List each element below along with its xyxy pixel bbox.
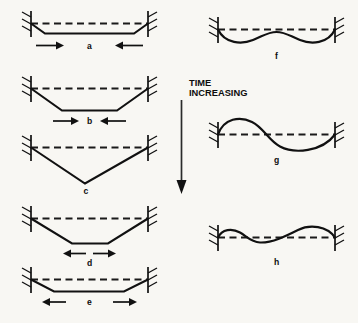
time-increasing-annotation: TIME INCREASING — [177, 78, 248, 194]
panel-label-e: e — [87, 297, 92, 307]
panel-f: f — [209, 17, 344, 61]
panel-label-d: d — [87, 258, 92, 268]
support-right-fixed-b — [148, 76, 157, 102]
buckling-sequence-figure: a — [0, 0, 358, 323]
support-left-fixed-d — [22, 206, 31, 232]
panel-label-c: c — [84, 186, 89, 196]
support-left-fixed-f — [209, 17, 218, 43]
load-arrow-right-e — [113, 298, 137, 306]
support-left-fixed-c — [22, 135, 31, 161]
deflected-beam-c — [31, 148, 148, 184]
panel-c: c — [22, 135, 157, 196]
support-right-fixed-h — [335, 225, 344, 251]
figure-canvas: a — [0, 0, 358, 323]
support-right-fixed-c — [148, 135, 157, 161]
deflected-beam-b — [31, 89, 148, 111]
panel-label-b: b — [87, 116, 92, 126]
support-right-fixed-f — [335, 17, 344, 43]
support-right-fixed-g — [335, 122, 344, 148]
support-right-fixed-d — [148, 206, 157, 232]
load-arrow-left-b — [53, 117, 79, 125]
deflected-beam-e — [31, 280, 148, 292]
deflected-beam-h — [218, 227, 335, 243]
time-caption-line1: TIME — [189, 78, 211, 88]
load-arrow-right-d — [93, 250, 116, 258]
load-arrow-right-b — [100, 117, 126, 125]
deflected-beam-a — [31, 24, 148, 34]
support-left-fixed-g — [209, 122, 218, 148]
load-arrow-left-e — [42, 298, 66, 306]
support-left-fixed-h — [209, 225, 218, 251]
panel-g: g — [209, 119, 344, 165]
panel-label-f: f — [275, 51, 278, 61]
deflected-beam-d — [31, 219, 148, 244]
load-arrow-left-a — [36, 42, 64, 50]
load-arrow-right-a — [115, 42, 143, 50]
support-left-fixed-a — [22, 11, 31, 37]
support-left-fixed-b — [22, 76, 31, 102]
time-caption-line2: INCREASING — [189, 88, 247, 98]
panel-h: h — [209, 225, 344, 267]
load-arrow-left-d — [63, 250, 86, 258]
panel-label-h: h — [274, 257, 279, 267]
panel-a: a — [22, 11, 157, 51]
downward-arrow-icon — [177, 100, 187, 194]
panel-label-a: a — [87, 41, 92, 51]
support-left-fixed-e — [22, 267, 31, 293]
support-right-fixed-e — [148, 267, 157, 293]
support-right-fixed-a — [148, 11, 157, 37]
panel-label-g: g — [274, 155, 279, 165]
panel-b: b — [22, 76, 157, 126]
deflected-beam-f — [218, 30, 335, 43]
panel-e: e — [22, 267, 157, 307]
panel-d: d — [22, 206, 157, 268]
